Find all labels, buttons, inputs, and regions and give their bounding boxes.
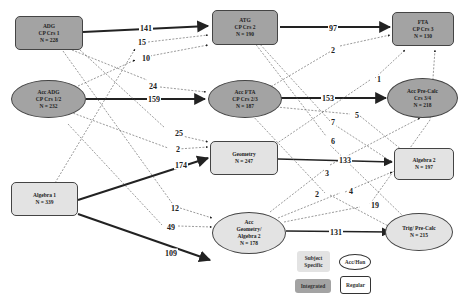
edge-label: 6 [330, 137, 336, 146]
edge-label: 3 [324, 169, 330, 178]
node-acc-pre-calc[interactable]: Acc Pre-Calc Crs 3/4 N = 218 [387, 78, 458, 118]
edge-accadg-atg [78, 60, 135, 86]
edge-label: 2 [175, 145, 181, 154]
edge-accgeo-fta [284, 207, 360, 222]
edge-label: 159 [147, 95, 161, 104]
edge-label: 109 [164, 249, 178, 258]
edge-label: 2 [330, 46, 336, 55]
edge-label: 4 [348, 187, 354, 196]
edge-geometry-alg2 [278, 159, 392, 162]
edge-label: 5 [354, 111, 360, 120]
legend-regular: Regular [340, 276, 371, 294]
node-acc-adg[interactable]: Acc ADG CP Crs 1/2 N = 232 [11, 80, 86, 118]
legend-acc-hon: Acc/Hon [339, 254, 371, 270]
legend-integrated: Integrated [295, 279, 331, 293]
edge-label: 12 [170, 204, 180, 213]
edge-adg-accgeo [63, 51, 172, 203]
node-algebra-1[interactable]: Algebra 1 N = 339 [11, 182, 78, 216]
edge-label: 174 [174, 161, 188, 170]
node-acc-fta[interactable]: Acc FTA CP Crs 2/3 N = 187 [208, 80, 282, 118]
node-acc-geometry-algebra-2[interactable]: Acc Geometry/ Algebra 2 N = 178 [212, 212, 286, 254]
edge-label: 131 [329, 228, 343, 237]
node-atg[interactable]: ATG CP Crs 2 N = 190 [212, 10, 278, 45]
edge-adg-accfta [72, 50, 147, 80]
edge-label: 1 [376, 75, 382, 84]
edge-label: 10 [141, 54, 151, 63]
legend-subject-specific: Subject Specific [297, 251, 330, 272]
edge-accgeo-alg2 [278, 193, 340, 218]
edge-label: 7 [330, 118, 336, 127]
edge-label: 19 [370, 201, 380, 210]
node-geometry[interactable]: Geometry N = 247 [210, 141, 278, 175]
edge-alg1-geometry [78, 158, 208, 200]
node-adg[interactable]: ADG CP Crs 1 N = 228 [15, 16, 83, 50]
edge-label: 15 [137, 38, 147, 47]
node-algebra-2[interactable]: Algebra 2 N = 197 [394, 148, 454, 180]
edge-label: 153 [321, 94, 335, 103]
edge-label: 97 [328, 24, 338, 33]
edge-label: 2 [314, 190, 320, 199]
edge-label: 49 [166, 223, 176, 232]
edge-accadg-accgeo [68, 124, 162, 225]
edge-label: 141 [139, 24, 153, 33]
node-trig-pre-calc[interactable]: Trig/ Pre-Calc N = 215 [385, 213, 453, 251]
edge-label: 25 [174, 129, 184, 138]
node-fta[interactable]: FTA CP Crs 3 N = 130 [392, 12, 454, 46]
edge-alg1-accgeo [78, 214, 210, 260]
edge-label: 24 [148, 82, 158, 91]
edge-label: 133 [338, 156, 352, 165]
edge-alg1-atg [55, 49, 135, 183]
